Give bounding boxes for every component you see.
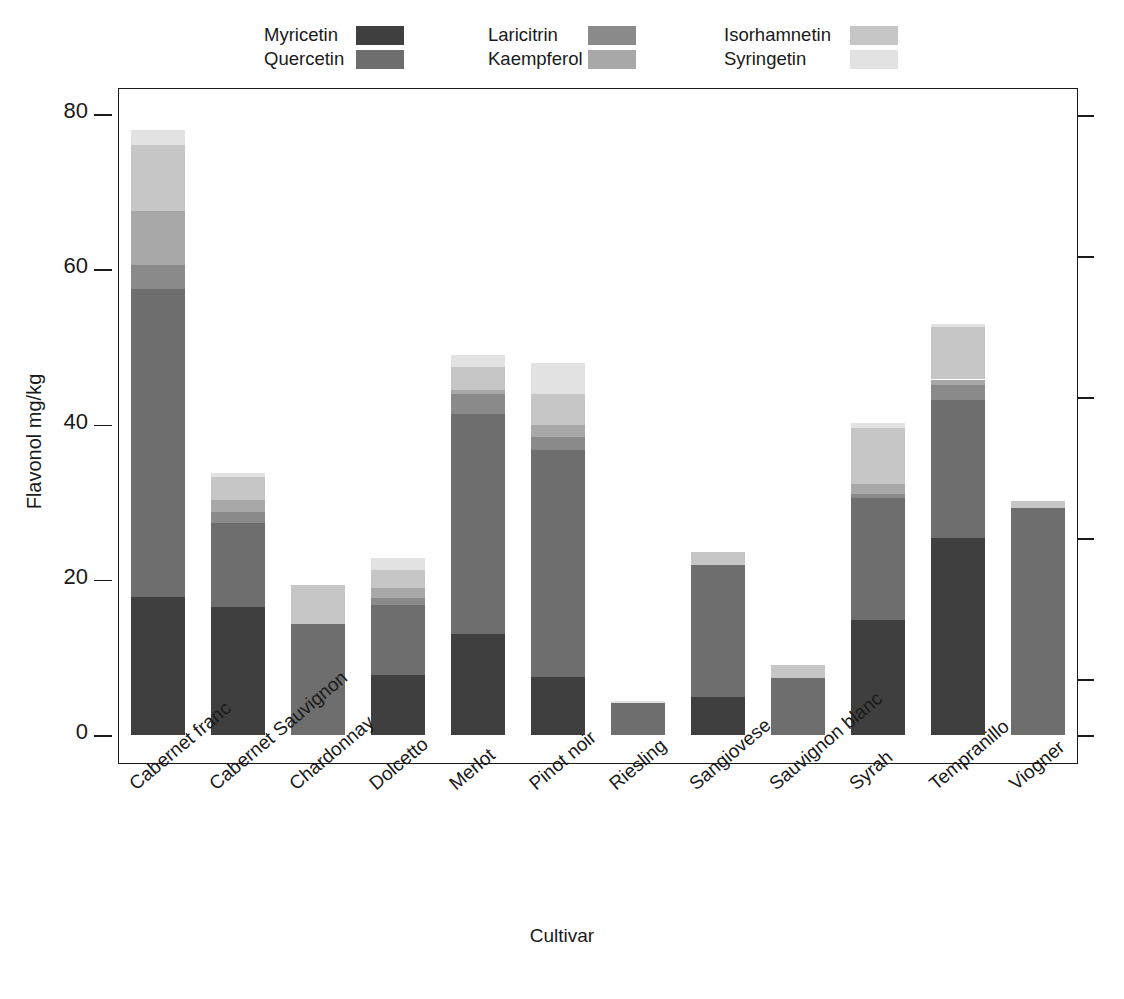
bar-segment-kaempferol[interactable] xyxy=(531,424,585,437)
bar-segment-laricitrin[interactable] xyxy=(211,511,265,523)
right-tick-2 xyxy=(1078,397,1094,399)
bar-segment-quercetin[interactable] xyxy=(211,522,265,607)
bar-merlot[interactable] xyxy=(451,355,505,735)
bar-segment-myricetin[interactable] xyxy=(451,633,505,735)
bar-segment-kaempferol[interactable] xyxy=(211,499,265,512)
bar-segment-isorhamnetin[interactable] xyxy=(931,326,985,380)
bar-tempranillo[interactable] xyxy=(931,324,985,735)
bar-segment-syringetin[interactable] xyxy=(611,700,665,703)
bar-segment-quercetin[interactable] xyxy=(1011,507,1065,735)
bar-segment-isorhamnetin[interactable] xyxy=(1011,500,1065,508)
bar-segment-isorhamnetin[interactable] xyxy=(691,551,745,565)
bar-segment-quercetin[interactable] xyxy=(531,449,585,677)
bar-segment-quercetin[interactable] xyxy=(451,413,505,634)
bar-segment-myricetin[interactable] xyxy=(131,596,185,735)
bar-riesling[interactable] xyxy=(611,701,665,735)
bar-segment-isorhamnetin[interactable] xyxy=(451,366,505,390)
bar-viogner[interactable] xyxy=(1011,501,1065,735)
bar-segment-kaempferol[interactable] xyxy=(131,210,185,265)
bar-sangiovese[interactable] xyxy=(691,552,745,735)
bar-segment-laricitrin[interactable] xyxy=(131,264,185,288)
bar-segment-quercetin[interactable] xyxy=(611,702,665,735)
bar-syrah[interactable] xyxy=(851,423,905,735)
bar-segment-myricetin[interactable] xyxy=(531,676,585,735)
bar-segment-quercetin[interactable] xyxy=(691,564,745,697)
bar-segment-isorhamnetin[interactable] xyxy=(371,569,425,587)
bar-segment-quercetin[interactable] xyxy=(131,288,185,597)
bar-segment-laricitrin[interactable] xyxy=(531,436,585,450)
right-tick-5 xyxy=(1078,735,1094,737)
bar-segment-isorhamnetin[interactable] xyxy=(851,427,905,484)
bar-series-container xyxy=(0,0,1124,999)
bar-segment-isorhamnetin[interactable] xyxy=(291,584,345,624)
bar-segment-syringetin[interactable] xyxy=(211,472,265,478)
bar-segment-myricetin[interactable] xyxy=(691,696,745,735)
bar-pinot-noir[interactable] xyxy=(531,363,585,735)
bar-segment-myricetin[interactable] xyxy=(371,674,425,735)
bar-segment-isorhamnetin[interactable] xyxy=(211,476,265,500)
bar-dolcetto[interactable] xyxy=(371,558,425,735)
bar-segment-isorhamnetin[interactable] xyxy=(531,393,585,425)
right-tick-4 xyxy=(1078,679,1094,681)
bar-cabernet-sauvignon[interactable] xyxy=(211,473,265,735)
bar-segment-isorhamnetin[interactable] xyxy=(131,144,185,211)
right-tick-0 xyxy=(1078,115,1094,117)
bar-segment-laricitrin[interactable] xyxy=(371,597,425,606)
bar-segment-myricetin[interactable] xyxy=(931,537,985,735)
bar-segment-quercetin[interactable] xyxy=(771,677,825,735)
bar-segment-quercetin[interactable] xyxy=(931,399,985,538)
bar-segment-syringetin[interactable] xyxy=(451,354,505,367)
right-tick-1 xyxy=(1078,256,1094,258)
bar-segment-syringetin[interactable] xyxy=(931,323,985,327)
bar-segment-kaempferol[interactable] xyxy=(371,587,425,598)
bar-segment-quercetin[interactable] xyxy=(371,604,425,675)
bar-segment-syringetin[interactable] xyxy=(131,129,185,146)
bar-segment-laricitrin[interactable] xyxy=(451,393,505,413)
bar-segment-quercetin[interactable] xyxy=(851,497,905,620)
bar-segment-syringetin[interactable] xyxy=(531,362,585,394)
bar-segment-isorhamnetin[interactable] xyxy=(771,664,825,678)
x-axis-title: Cultivar xyxy=(0,925,1124,947)
bar-segment-kaempferol[interactable] xyxy=(851,483,905,493)
right-tick-3 xyxy=(1078,538,1094,540)
bar-segment-syringetin[interactable] xyxy=(851,422,905,428)
bar-segment-laricitrin[interactable] xyxy=(931,384,985,400)
bar-segment-syringetin[interactable] xyxy=(371,557,425,570)
bar-sauvignon-blanc[interactable] xyxy=(771,665,825,735)
bar-cabernet-franc[interactable] xyxy=(131,130,185,735)
